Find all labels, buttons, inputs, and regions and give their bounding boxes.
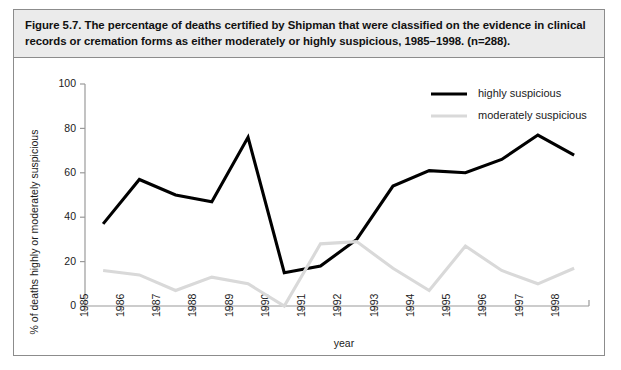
x-axis-tick-label: 1985 — [78, 293, 90, 317]
y-axis-tick-label: 80 — [64, 122, 76, 134]
y-axis-tick-label: 40 — [64, 210, 76, 222]
legend-label-moderately-suspicious: moderately suspicious — [478, 109, 587, 121]
x-axis-tick-label: 1994 — [404, 293, 416, 317]
y-axis-tick-label: 100 — [58, 77, 76, 89]
x-axis-tick-label: 1997 — [513, 293, 525, 317]
y-axis-title: % of deaths highly or moderately suspici… — [28, 130, 40, 335]
x-axis: 1985198619871988198919901991199219931994… — [78, 293, 589, 317]
x-axis-tick-label: 1986 — [114, 293, 126, 317]
chart-plot-area: 020406080100 198519861987198819891990199… — [14, 62, 604, 356]
y-axis-tick-label: 0 — [70, 299, 76, 311]
x-axis-tick-label: 1988 — [186, 293, 198, 317]
figure-caption: Figure 5.7. The percentage of deaths cer… — [14, 10, 604, 58]
chart-legend: highly suspiciousmoderately suspicious — [431, 87, 587, 121]
figure-caption-text: Figure 5.7. The percentage of deaths cer… — [25, 17, 594, 49]
x-axis-tick-label: 1993 — [368, 293, 380, 317]
line-chart: 020406080100 198519861987198819891990199… — [14, 62, 604, 356]
y-axis-tick-label: 20 — [64, 255, 76, 267]
x-axis-tick-label: 1987 — [150, 293, 162, 317]
chart-series-group — [103, 135, 574, 306]
y-axis: 020406080100 — [58, 77, 85, 311]
x-axis-tick-label: 1996 — [476, 293, 488, 317]
x-axis-tick-label: 1989 — [223, 293, 235, 317]
legend-label-highly-suspicious: highly suspicious — [478, 87, 562, 99]
x-axis-tick-label: 1998 — [549, 293, 561, 317]
y-axis-tick-label: 60 — [64, 166, 76, 178]
figure-container: Figure 5.7. The percentage of deaths cer… — [13, 9, 605, 356]
x-axis-tick-label: 1991 — [295, 293, 307, 317]
x-axis-tick-label: 1995 — [440, 293, 452, 317]
x-axis-title: year — [334, 337, 355, 349]
series-line-highly-suspicious — [103, 135, 574, 273]
x-axis-tick-label: 1992 — [331, 293, 343, 317]
